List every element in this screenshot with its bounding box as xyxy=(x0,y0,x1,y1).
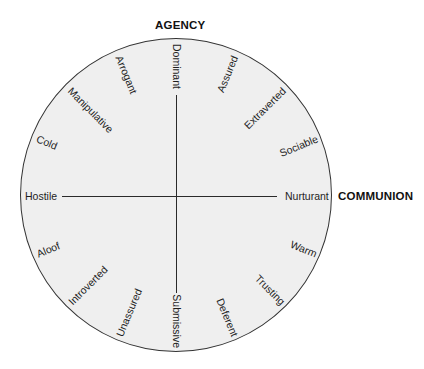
trait-label-hostile: Hostile xyxy=(25,190,57,202)
communion-axis-line xyxy=(62,196,277,197)
trait-label-nurturant: Nurturant xyxy=(285,190,329,202)
communion-axis-title: COMMUNION xyxy=(338,190,413,202)
trait-label-dominant: Dominant xyxy=(171,44,183,89)
trait-label-submissive: Submissive xyxy=(171,294,183,348)
agency-axis-line xyxy=(176,95,177,293)
agency-axis-title: AGENCY xyxy=(155,19,205,31)
